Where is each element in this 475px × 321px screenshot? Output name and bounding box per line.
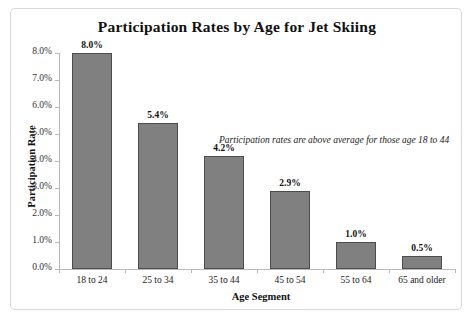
bar-value-label: 0.5%: [411, 243, 432, 253]
bar-value-label: 1.0%: [345, 229, 366, 239]
bar-group[interactable]: 8.0%18 to 24: [59, 53, 125, 269]
x-axis-tick-mark: [323, 269, 324, 273]
bar-group[interactable]: 1.0%55 to 64: [323, 53, 389, 269]
bar-group[interactable]: 2.9%45 to 54: [257, 53, 323, 269]
bar[interactable]: [138, 123, 178, 269]
y-axis-tick-label: 3.0%: [32, 181, 52, 191]
bar-group[interactable]: 0.5%65 and older: [389, 53, 455, 269]
bar-group[interactable]: 4.2%35 to 44: [191, 53, 257, 269]
y-axis-tick-label: 4.0%: [32, 154, 52, 164]
x-axis-category-label: 35 to 44: [208, 275, 239, 285]
bar[interactable]: [336, 242, 376, 269]
x-axis-tick-mark: [389, 269, 390, 273]
x-axis-tick-mark: [455, 269, 456, 273]
chart-annotation: Participation rates are above average fo…: [219, 135, 449, 145]
y-axis-tick-label: 8.0%: [32, 46, 52, 56]
y-axis-tick-label: 0.0%: [32, 262, 52, 272]
x-axis-category-label: 45 to 54: [274, 275, 305, 285]
bar-value-label: 8.0%: [81, 40, 102, 50]
x-axis-tick-mark: [191, 269, 192, 273]
x-axis-category-label: 55 to 64: [340, 275, 371, 285]
bar[interactable]: [72, 53, 112, 269]
bar-group[interactable]: 5.4%25 to 34: [125, 53, 191, 269]
x-axis-category-label: 65 and older: [398, 275, 446, 285]
y-axis-tick-label: 5.0%: [32, 127, 52, 137]
y-axis-tick-label: 7.0%: [32, 73, 52, 83]
bar-value-label: 2.9%: [279, 178, 300, 188]
chart-title: Participation Rates by Age for Jet Skiin…: [11, 18, 463, 36]
x-axis-tick-mark: [125, 269, 126, 273]
x-axis-title: Age Segment: [59, 291, 463, 302]
x-axis-category-label: 25 to 34: [142, 275, 173, 285]
bar[interactable]: [204, 156, 244, 269]
x-axis-category-label: 18 to 24: [76, 275, 107, 285]
bar-value-label: 5.4%: [147, 110, 168, 120]
chart-container: Participation Rates by Age for Jet Skiin…: [10, 8, 462, 310]
x-axis-tick-mark: [59, 269, 60, 273]
x-axis-tick-mark: [257, 269, 258, 273]
bar[interactable]: [402, 256, 442, 270]
y-axis-tick-label: 6.0%: [32, 100, 52, 110]
y-axis-tick-label: 1.0%: [32, 235, 52, 245]
y-axis-tick-label: 2.0%: [32, 208, 52, 218]
plot-area: 0.0%1.0%2.0%3.0%4.0%5.0%6.0%7.0%8.0% 8.0…: [59, 53, 455, 269]
bar[interactable]: [270, 191, 310, 269]
